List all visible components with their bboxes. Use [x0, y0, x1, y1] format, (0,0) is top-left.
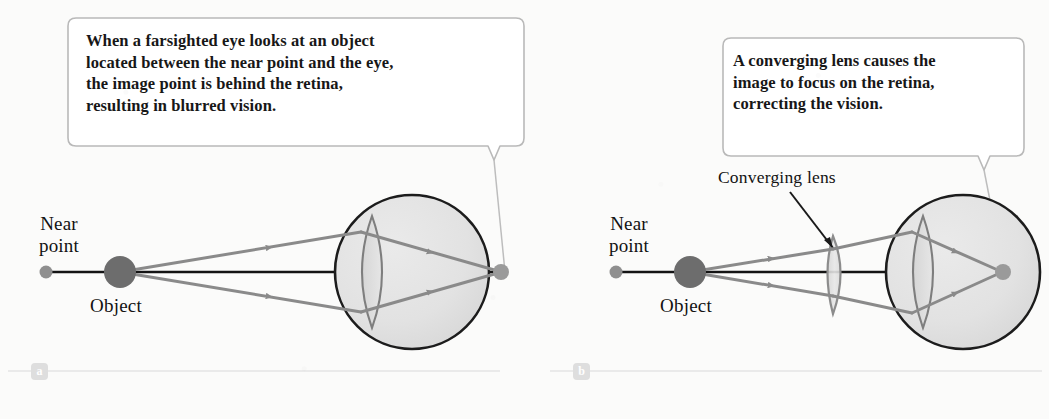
near-point-dot-b	[610, 266, 623, 279]
object-dot-b	[674, 256, 706, 288]
converging-lens-label: Converging lens	[718, 166, 898, 188]
figure-page: When a farsighted eye looks at an object…	[0, 0, 1049, 419]
near-point-dot-a	[40, 266, 53, 279]
ray-upper-incident-b	[690, 249, 833, 272]
callout-text-b: A converging lens causes the image to fo…	[733, 50, 1033, 115]
image-point-a	[493, 264, 509, 280]
ray-upper-incident-a	[120, 232, 361, 272]
panel-letter-b: b	[573, 363, 590, 380]
object-label-a: Object	[70, 295, 162, 317]
near-point-label-b: Near point	[592, 213, 666, 257]
image-point-b	[995, 264, 1011, 280]
object-label-b: Object	[640, 295, 732, 317]
ray-lower-incident-b	[690, 272, 833, 296]
callout-leader-line-a	[494, 160, 505, 272]
eyeball-b	[886, 195, 1040, 349]
callout-text-a: When a farsighted eye looks at an object…	[86, 30, 506, 116]
eyeball-a	[335, 195, 489, 349]
panel-letter-a: a	[31, 363, 48, 380]
object-dot-a	[104, 256, 136, 288]
near-point-label-a: Near point	[22, 213, 96, 257]
